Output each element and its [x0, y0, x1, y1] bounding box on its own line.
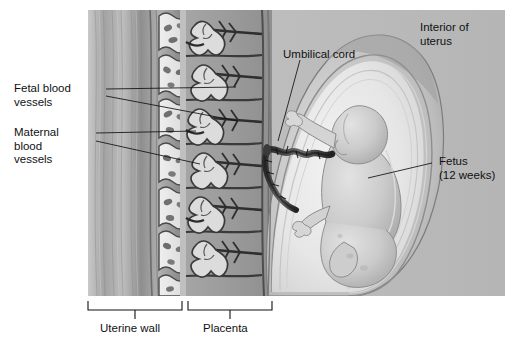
label-placenta: Placenta	[203, 322, 248, 336]
label-maternal-blood-vessels: Maternal blood vessels	[14, 126, 59, 167]
bottom-brackets	[88, 301, 272, 319]
label-interior-of-uterus: Interior of uterus	[420, 21, 469, 48]
label-umbilical-cord: Umbilical cord	[283, 48, 355, 62]
label-uterine-wall: Uterine wall	[100, 322, 160, 336]
label-fetus: Fetus (12 weeks)	[439, 155, 495, 182]
illustration-stage: Fetal blood vessels Maternal blood vesse…	[0, 0, 513, 346]
figure-svg	[0, 0, 513, 346]
label-fetal-blood-vessels: Fetal blood vessels	[14, 82, 71, 109]
